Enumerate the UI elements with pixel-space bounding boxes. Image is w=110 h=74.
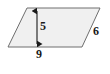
- parallelogram-shape: [8, 8, 100, 47]
- height-dimension-label: 5: [40, 20, 46, 32]
- parallelogram-figure: 5 9 6: [0, 0, 110, 74]
- side-dimension-label: 6: [93, 25, 99, 37]
- base-dimension-label: 9: [36, 48, 42, 60]
